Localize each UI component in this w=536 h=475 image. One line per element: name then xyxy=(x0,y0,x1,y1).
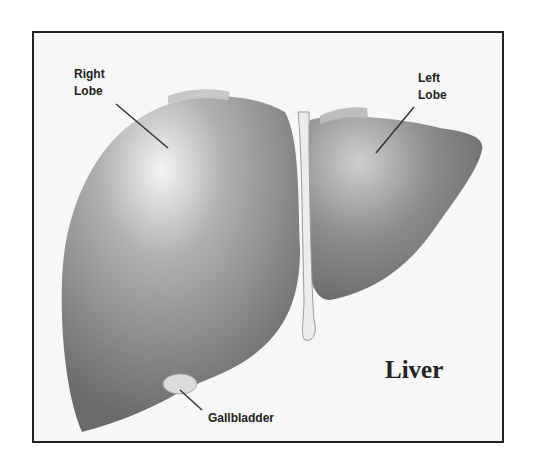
right-lobe-label-line1: Right xyxy=(74,66,105,83)
right-lobe-label: Right Lobe xyxy=(74,66,105,100)
right-lobe-label-line2: Lobe xyxy=(74,83,105,100)
gallbladder-label: Gallbladder xyxy=(208,410,274,427)
diagram-title: Liver xyxy=(385,356,443,384)
left-lobe-shape xyxy=(306,116,482,300)
left-lobe-label: Left Lobe xyxy=(418,70,447,104)
left-lobe-label-line2: Lobe xyxy=(418,87,447,104)
left-lobe-label-line1: Left xyxy=(418,70,447,87)
